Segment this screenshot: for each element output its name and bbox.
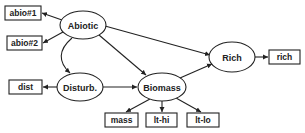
edge-biomass-rich bbox=[180, 64, 212, 78]
svg-text:Abiotic: Abiotic bbox=[68, 21, 99, 31]
node-dist: dist bbox=[9, 80, 42, 94]
svg-text:Rich: Rich bbox=[222, 53, 242, 63]
edge-abiotic-abio2 bbox=[43, 32, 63, 43]
edge-abiotic-rich bbox=[105, 26, 210, 55]
path-diagram: abio#1 abio#2 dist mass lt-hi lt-lo rich bbox=[0, 0, 305, 133]
svg-text:lt-hi: lt-hi bbox=[154, 115, 170, 125]
edge-biomass-ltlo bbox=[176, 98, 201, 112]
latent-nodes: Abiotic Disturb. Biomass Rich bbox=[57, 11, 255, 101]
node-rich: Rich bbox=[209, 42, 255, 72]
node-ltlo: lt-lo bbox=[187, 113, 219, 127]
edge-abiotic-disturb-bidirected bbox=[61, 38, 72, 73]
svg-text:abio#2: abio#2 bbox=[11, 38, 38, 48]
svg-text:mass: mass bbox=[111, 115, 133, 125]
edge-biomass-mass bbox=[126, 99, 150, 112]
node-abio2: abio#2 bbox=[7, 36, 42, 50]
edge-abiotic-abio1 bbox=[42, 13, 62, 20]
node-biomass: Biomass bbox=[138, 73, 186, 101]
node-mass: mass bbox=[105, 113, 138, 127]
node-abio1: abio#1 bbox=[5, 6, 41, 20]
edge-abiotic-biomass bbox=[99, 35, 146, 75]
node-rich-observed: rich bbox=[269, 50, 300, 64]
node-lthi: lt-hi bbox=[146, 113, 177, 127]
observed-nodes: abio#1 abio#2 dist mass lt-hi lt-lo rich bbox=[5, 6, 300, 127]
svg-text:dist: dist bbox=[18, 82, 33, 92]
svg-text:Biomass: Biomass bbox=[143, 83, 181, 93]
node-disturb: Disturb. bbox=[57, 73, 103, 101]
svg-text:abio#1: abio#1 bbox=[10, 8, 37, 18]
node-abiotic: Abiotic bbox=[60, 11, 106, 39]
svg-text:lt-lo: lt-lo bbox=[195, 115, 211, 125]
svg-text:rich: rich bbox=[277, 52, 293, 62]
svg-text:Disturb.: Disturb. bbox=[63, 83, 97, 93]
